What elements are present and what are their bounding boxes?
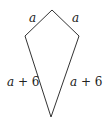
plus-six: + 6 [77,75,102,89]
plus-six: + 6 [14,75,39,89]
label-bottom-right-side: a + 6 [70,75,102,89]
label-top-left-side: a [29,11,36,25]
var-a: a [70,75,77,89]
label-bottom-left-side: a + 6 [7,75,39,89]
kite-outline [25,10,79,117]
var-a: a [7,75,14,89]
kite-diagram: a a a + 6 a + 6 [0,0,104,130]
label-top-right-side: a [72,11,79,25]
